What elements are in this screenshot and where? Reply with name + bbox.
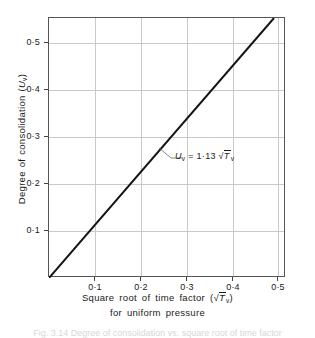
x-axis-title-text: Square root of time factor ( <box>82 292 213 303</box>
plot-area <box>48 17 285 277</box>
xtick-0-4 <box>232 277 233 281</box>
y-axis-title-var: U <box>16 81 27 88</box>
sqrt-icon: √T <box>213 292 226 304</box>
equation-annotation: Uv = 1·13 √Tv <box>175 150 234 162</box>
annotation-radicand-sub: v <box>231 155 235 162</box>
x-axis-title-close: ) <box>230 292 233 303</box>
ytick-0-1 <box>44 230 48 231</box>
xtick-0-1 <box>94 277 95 281</box>
xticklabel-0-1: 0·1 <box>80 282 110 292</box>
consolidation-line <box>49 18 274 278</box>
annotation-equals: = <box>188 151 194 161</box>
xtick-0-2 <box>140 277 141 281</box>
xtick-0-3 <box>186 277 187 281</box>
annotation-coefficient: 1·13 <box>197 151 216 161</box>
ytick-0-3 <box>44 136 48 137</box>
xticklabel-0-3: 0·3 <box>172 282 202 292</box>
y-axis-title: Degree of consolidation (Uv) <box>16 39 28 239</box>
x-axis-title-radicand: T <box>219 292 226 303</box>
y-axis-title-close: ) <box>16 74 27 77</box>
xticklabel-0-2: 0·2 <box>126 282 156 292</box>
y-axis-title-var-sub: v <box>21 77 28 81</box>
ytick-0-2 <box>44 183 48 184</box>
x-axis-title-line1: Square root of time factor (√Tv) <box>0 292 315 307</box>
xticklabel-0-5: 0·5 <box>263 282 293 292</box>
annotation-sqrt-icon: √T <box>219 150 231 161</box>
xticklabel-0-4: 0·4 <box>218 282 248 292</box>
annotation-variable: U <box>175 151 182 161</box>
ytick-0-4 <box>44 89 48 90</box>
figure-caption: Fig. 3.14 Degree of consolidation vs. sq… <box>0 328 315 338</box>
x-axis-title-line2: for uniform pressure <box>0 307 315 319</box>
annotation-radicand: T <box>224 150 231 161</box>
annotation-variable-sub: v <box>182 155 186 162</box>
xtick-0-5 <box>277 277 278 281</box>
data-line-svg <box>49 18 286 278</box>
y-axis-title-prefix: Degree of consolidation ( <box>16 88 27 204</box>
x-axis-title: Square root of time factor (√Tv) for uni… <box>0 292 315 319</box>
ytick-0-5 <box>44 42 48 43</box>
